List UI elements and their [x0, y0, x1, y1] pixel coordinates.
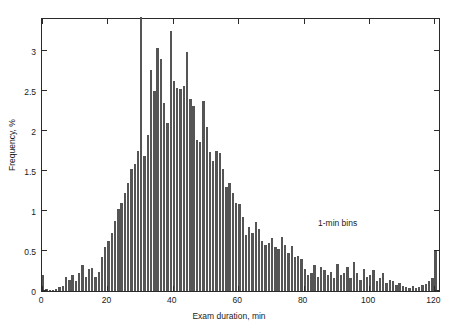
histogram-bar: [150, 70, 152, 291]
histogram-bar: [415, 288, 417, 291]
y-tick-mark: [42, 50, 47, 51]
histogram-bar: [258, 229, 260, 291]
y-tick-label: 3: [8, 47, 36, 57]
histogram-bar: [202, 101, 204, 291]
x-tick-mark: [238, 286, 239, 291]
x-tick-mark: [434, 19, 435, 24]
histogram-bar: [58, 287, 60, 291]
histogram-bar: [340, 275, 342, 291]
x-tick-mark: [304, 286, 305, 291]
histogram-bar: [94, 277, 96, 291]
x-tick-mark: [173, 286, 174, 291]
histogram-bar: [284, 245, 286, 291]
histogram-bar: [281, 237, 283, 291]
histogram-bar: [196, 140, 198, 291]
histogram-bar: [62, 286, 64, 291]
histogram-bar: [173, 81, 175, 291]
x-tick-label: 120: [426, 295, 440, 305]
histogram-bar: [81, 265, 83, 291]
histogram-bar: [91, 268, 93, 291]
histogram-bar: [222, 169, 224, 291]
histogram-bar: [209, 152, 211, 291]
histogram-bar: [134, 164, 136, 291]
histogram-bar: [356, 273, 358, 291]
x-tick-mark: [107, 19, 108, 24]
histogram-bar: [320, 267, 322, 291]
histogram-bar: [107, 241, 109, 291]
histogram-bar: [402, 286, 404, 291]
x-tick-label: 0: [39, 295, 44, 305]
histogram-bar: [192, 106, 194, 291]
x-tick-mark: [369, 19, 370, 24]
y-tick-mark: [434, 250, 439, 251]
histogram-bar: [117, 209, 119, 291]
y-tick-mark: [434, 50, 439, 51]
histogram-bar: [261, 241, 263, 291]
y-tick-mark: [42, 210, 47, 211]
bin-width-annotation: 1-min bins: [318, 218, 357, 228]
histogram-bar: [251, 233, 253, 291]
histogram-bar: [307, 275, 309, 291]
histogram-bar: [199, 142, 201, 291]
y-tick-mark: [42, 290, 47, 291]
histogram-bar: [170, 31, 172, 291]
histogram-bar: [114, 221, 116, 292]
histogram-bar: [425, 284, 427, 291]
plot-area: [41, 18, 440, 292]
histogram-bar: [212, 161, 214, 291]
y-tick-mark: [434, 90, 439, 91]
histogram-bar: [346, 267, 348, 291]
histogram-bar: [147, 135, 149, 291]
histogram-bar: [359, 280, 361, 291]
histogram-bar: [65, 277, 67, 291]
histogram-bar: [75, 281, 77, 291]
histogram-bar: [160, 59, 162, 291]
histogram-bar: [287, 253, 289, 291]
x-tick-label: 100: [361, 295, 375, 305]
histogram-bar: [268, 243, 270, 291]
histogram-bar: [120, 203, 122, 291]
histogram-bar: [163, 103, 165, 291]
histogram-bar: [245, 235, 247, 291]
histogram-bar: [85, 277, 87, 291]
histogram-bar: [176, 88, 178, 291]
histogram-bar: [382, 273, 384, 291]
histogram-bar: [363, 269, 365, 291]
histogram-bar: [215, 151, 217, 291]
histogram-bar: [248, 227, 250, 291]
histogram-bar: [111, 233, 113, 291]
histogram-bar: [55, 289, 57, 291]
histogram-bar: [372, 270, 374, 291]
y-tick-mark: [42, 170, 47, 171]
y-tick-mark: [42, 250, 47, 251]
y-tick-label: 0.5: [8, 247, 36, 257]
histogram-bar: [130, 169, 132, 291]
histogram-bar: [405, 287, 407, 291]
histogram-bar: [395, 285, 397, 291]
histogram-bar: [333, 278, 335, 291]
histogram-bar: [418, 287, 420, 291]
y-tick-mark: [434, 130, 439, 131]
histogram-bar: [88, 269, 90, 291]
histogram-bar: [271, 238, 273, 291]
histogram-bar: [291, 246, 293, 291]
histogram-bar: [297, 256, 299, 291]
x-axis-title: Exam duration, min: [0, 311, 458, 321]
x-tick-label: 60: [232, 295, 241, 305]
x-tick-mark: [173, 19, 174, 24]
y-tick-label: 0: [8, 287, 36, 297]
y-axis-title: Frequency, %: [7, 95, 17, 195]
histogram-bar: [228, 183, 230, 291]
y-tick-label: 1: [8, 207, 36, 217]
histogram-bar: [71, 275, 73, 291]
histogram-bar: [166, 123, 168, 291]
x-tick-label: 80: [298, 295, 307, 305]
histogram-bar: [68, 280, 70, 291]
histogram-bar: [137, 151, 139, 291]
histogram-bar: [274, 247, 276, 291]
histogram-bar: [264, 245, 266, 291]
y-tick-mark: [42, 130, 47, 131]
y-tick-mark: [434, 170, 439, 171]
histogram-bar: [330, 272, 332, 291]
histogram-bar: [179, 89, 181, 291]
